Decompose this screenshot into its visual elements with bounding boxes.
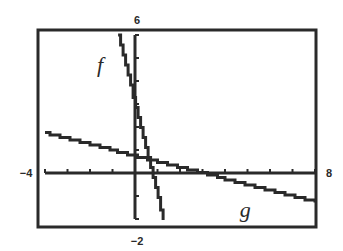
function-f-line: [118, 35, 163, 220]
y-axis: [135, 35, 139, 219]
x-min-label: −4: [20, 168, 33, 179]
y-min-label: −2: [131, 236, 144, 247]
graph-window: [0, 0, 343, 251]
viewing-window-frame: [38, 30, 316, 227]
function-g-line: [45, 133, 315, 203]
x-max-label: 8: [326, 168, 332, 179]
function-f-label: f: [97, 54, 103, 76]
x-axis: [45, 169, 315, 173]
function-lines: [45, 35, 315, 220]
function-g-label: g: [240, 199, 251, 221]
y-max-label: 6: [134, 15, 140, 26]
